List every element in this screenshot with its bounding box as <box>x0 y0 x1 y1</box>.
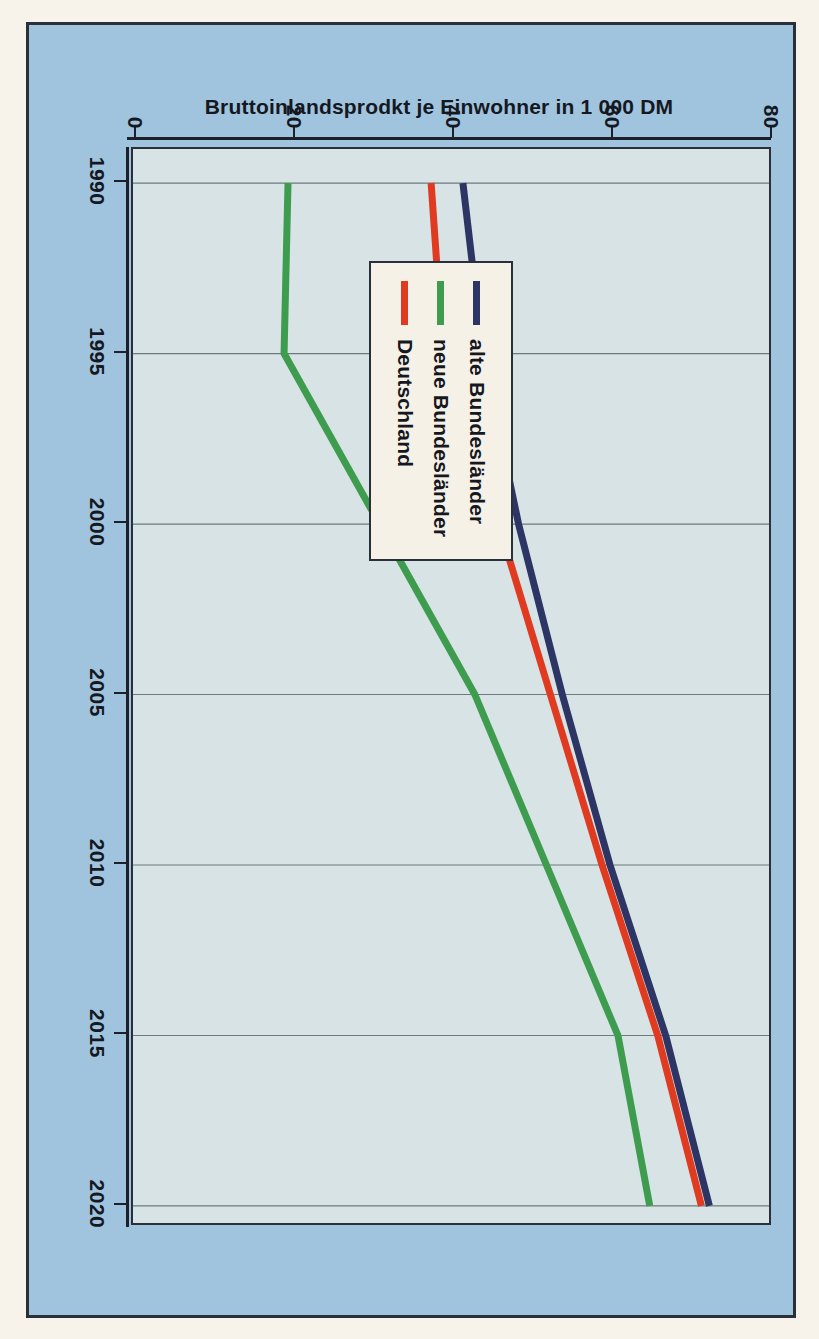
y-tick-label-80: 80 <box>759 69 783 129</box>
x-tick-label-2000: 2000 <box>85 498 109 547</box>
legend-swatch-icon <box>474 281 481 325</box>
legend-item-label: neue Bundesländer <box>429 339 453 537</box>
x-tick-label-2005: 2005 <box>85 668 109 717</box>
x-tick-label-2020: 2020 <box>85 1180 109 1229</box>
chart-figure: 020406080 Bruttoinlandsprodkt je Einwohn… <box>41 55 781 1285</box>
legend-item: Deutschland <box>387 281 423 537</box>
x-tick-label-1995: 1995 <box>85 327 109 376</box>
legend-item-label: Deutschland <box>393 339 417 467</box>
y-axis-title: Bruttoinlandsprodkt je Einwohner in 1 00… <box>119 95 759 119</box>
poster-page: 020406080 Bruttoinlandsprodkt je Einwohn… <box>0 0 819 1339</box>
x-tick-label-1990: 1990 <box>85 157 109 206</box>
x-tick-label-2015: 2015 <box>85 1009 109 1058</box>
x-tick-2010 <box>114 862 127 864</box>
x-tick-2020 <box>114 1203 127 1205</box>
x-tick-label-2010: 2010 <box>85 839 109 888</box>
chart-poster-panel: 020406080 Bruttoinlandsprodkt je Einwohn… <box>26 22 796 1318</box>
legend-swatch-icon <box>438 281 445 325</box>
x-tick-1995 <box>114 351 127 353</box>
x-tick-2000 <box>114 521 127 523</box>
x-tick-2015 <box>114 1032 127 1034</box>
legend-item-label: alte Bundesländer <box>465 339 489 524</box>
x-tick-1990 <box>114 180 127 182</box>
legend-swatch-icon <box>402 281 409 325</box>
y-axis-line <box>127 137 771 140</box>
x-tick-2005 <box>114 692 127 694</box>
chart-legend: alte Bundesländerneue BundesländerDeutsc… <box>369 261 513 561</box>
legend-item: neue Bundesländer <box>423 281 459 537</box>
legend-item: alte Bundesländer <box>459 281 495 537</box>
x-axis-line <box>126 147 129 1227</box>
rotated-figure-wrapper: 020406080 Bruttoinlandsprodkt je Einwohn… <box>41 55 781 1285</box>
